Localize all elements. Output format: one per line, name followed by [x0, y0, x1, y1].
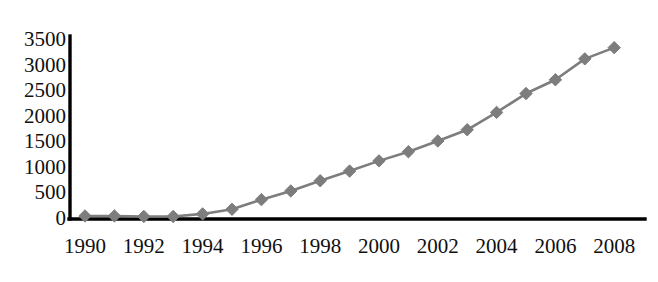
data-line — [85, 48, 614, 217]
data-point-marker — [226, 203, 238, 215]
data-point-markers — [79, 41, 621, 222]
data-point-marker — [490, 106, 502, 118]
axes — [69, 36, 645, 219]
data-point-marker — [608, 41, 620, 53]
data-point-marker — [432, 135, 444, 147]
data-point-marker — [402, 145, 414, 157]
data-point-marker — [461, 124, 473, 136]
data-point-marker — [343, 165, 355, 177]
data-point-marker — [255, 193, 267, 205]
data-point-marker — [285, 185, 297, 197]
line-chart: 0500100015002000250030003500 19901992199… — [0, 0, 658, 282]
data-point-marker — [373, 155, 385, 167]
data-point-marker — [167, 210, 179, 222]
data-point-marker — [520, 87, 532, 99]
data-point-marker — [138, 210, 150, 222]
data-point-marker — [314, 175, 326, 187]
plot-area — [0, 0, 658, 282]
